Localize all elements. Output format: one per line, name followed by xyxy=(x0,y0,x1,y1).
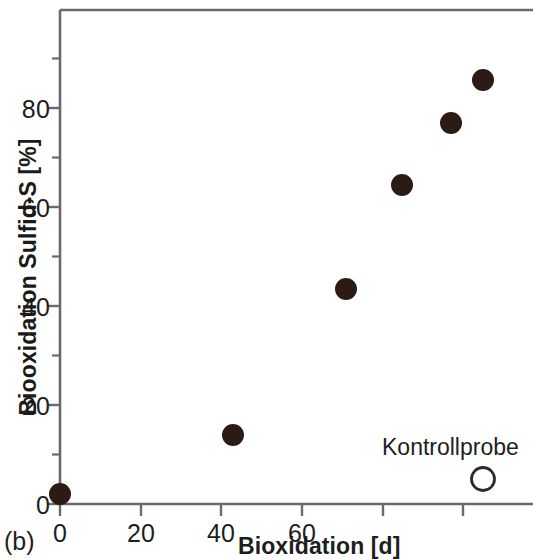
data-point xyxy=(440,112,462,134)
panel-label: (b) xyxy=(4,529,35,554)
x-tick-label-0: 0 xyxy=(30,521,90,546)
y-axis-title: Biooxidation Sulfid-S [%] xyxy=(15,138,42,415)
y-tick-label-80: 80 xyxy=(2,97,50,122)
series-kontrollprobe-points xyxy=(472,468,495,491)
x-axis-title: Bioxidation [d] xyxy=(238,535,400,558)
annotation-kontrollprobe-label: Kontrollprobe xyxy=(382,436,519,459)
figure-panel-b: 0 20 40 60 80 0 20 40 60 Biooxidation Su… xyxy=(0,0,533,560)
data-point xyxy=(335,278,357,300)
x-axis-major-ticks xyxy=(60,504,463,516)
scatter-plot-canvas xyxy=(0,0,533,560)
data-point-open-circle xyxy=(472,468,495,491)
y-axis-title-container: Biooxidation Sulfid-S [%] xyxy=(13,127,43,427)
data-point xyxy=(222,424,244,446)
y-tick-label-0: 0 xyxy=(2,493,50,518)
data-point xyxy=(472,69,494,91)
data-point xyxy=(391,174,413,196)
x-tick-label-20: 20 xyxy=(111,521,171,546)
data-point xyxy=(49,483,71,505)
plot-frame xyxy=(60,10,533,504)
